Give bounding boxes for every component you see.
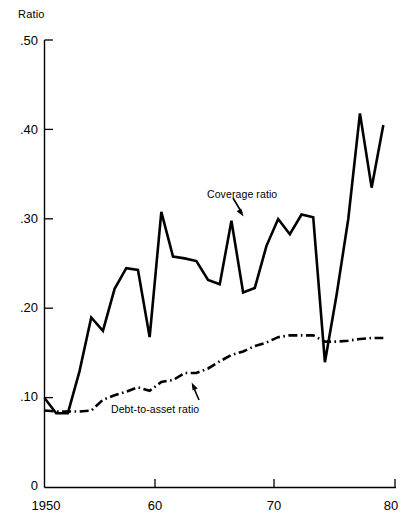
y-axis-ticks bbox=[45, 40, 54, 398]
series-lines-group bbox=[45, 113, 384, 413]
plot-area bbox=[0, 0, 411, 522]
series-line-coverage-ratio bbox=[45, 113, 384, 413]
axes-group bbox=[45, 40, 397, 488]
annotation-arrows-group bbox=[192, 198, 244, 400]
arrowhead-debt-to-asset-ratio bbox=[192, 382, 198, 390]
series-line-debt-to-asset-ratio bbox=[45, 335, 384, 411]
chart-container: Ratio .50 .40 .30 .20 .10 0 1950 60 70 8… bbox=[0, 0, 411, 522]
x-axis-ticks bbox=[155, 479, 395, 488]
